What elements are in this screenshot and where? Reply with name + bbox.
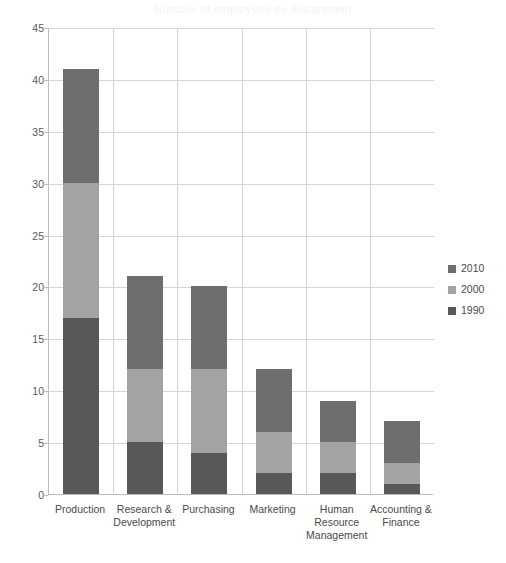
legend-item-label: 2010: [461, 263, 484, 274]
bar-segment[interactable]: [256, 369, 292, 431]
legend: 201020001990: [448, 258, 506, 321]
y-axis-tick-label: 10: [14, 386, 44, 396]
category-separator: [370, 28, 371, 495]
y-axis-tick-label: 35: [14, 127, 44, 137]
y-axis-tick-mark: [43, 495, 48, 496]
bar-segment[interactable]: [63, 69, 99, 183]
stacked-bar-chart: 051015202530354045 ProductionResearch & …: [0, 0, 506, 563]
y-axis-tick-label: 30: [14, 179, 44, 189]
bar-segment[interactable]: [191, 369, 227, 452]
legend-item[interactable]: 2000: [448, 279, 506, 300]
x-axis-category-label: Marketing: [237, 503, 309, 516]
bar-segment[interactable]: [384, 421, 420, 463]
bar-segment[interactable]: [320, 473, 356, 494]
bar-segment[interactable]: [127, 276, 163, 369]
bar-segment[interactable]: [191, 453, 227, 495]
y-axis-tick-label: 5: [14, 438, 44, 448]
stacked-bar[interactable]: [384, 421, 420, 494]
x-axis-category-label: Purchasing: [172, 503, 244, 516]
category-separator: [242, 28, 243, 495]
category-separator: [306, 28, 307, 495]
x-axis-category-label: Research & Development: [108, 503, 180, 529]
y-axis-tick-label: 15: [14, 334, 44, 344]
stacked-bar[interactable]: [191, 286, 227, 494]
bar-segment[interactable]: [256, 473, 292, 494]
y-axis-tick-label: 40: [14, 75, 44, 85]
y-axis-tick-label: 45: [14, 23, 44, 33]
bar-segment[interactable]: [384, 463, 420, 484]
y-axis-tick-label: 20: [14, 282, 44, 292]
stacked-bar[interactable]: [256, 369, 292, 494]
y-axis-tick-label: 25: [14, 231, 44, 241]
bar-segment[interactable]: [384, 484, 420, 494]
category-separator: [113, 28, 114, 495]
legend-swatch-icon: [448, 265, 456, 273]
legend-item-label: 1990: [461, 305, 484, 316]
bar-segment[interactable]: [320, 401, 356, 443]
legend-item-label: 2000: [461, 284, 484, 295]
legend-swatch-icon: [448, 286, 456, 294]
bar-segment[interactable]: [127, 369, 163, 442]
legend-swatch-icon: [448, 307, 456, 315]
plot-area: [48, 28, 433, 495]
x-axis-category-label: Human Resource Management: [301, 503, 373, 542]
bar-segment[interactable]: [256, 432, 292, 474]
bar-segment[interactable]: [191, 286, 227, 369]
legend-item[interactable]: 1990: [448, 300, 506, 321]
bar-segment[interactable]: [320, 442, 356, 473]
legend-item[interactable]: 2010: [448, 258, 506, 279]
category-separator: [177, 28, 178, 495]
x-axis-category-label: Production: [44, 503, 116, 516]
bar-segment[interactable]: [63, 183, 99, 318]
stacked-bar[interactable]: [320, 401, 356, 494]
bar-segment[interactable]: [127, 442, 163, 494]
y-axis-tick-label: 0: [14, 490, 44, 500]
bar-segment[interactable]: [63, 318, 99, 494]
stacked-bar[interactable]: [127, 276, 163, 494]
stacked-bar[interactable]: [63, 69, 99, 494]
x-axis-category-label: Accounting & Finance: [365, 503, 437, 529]
